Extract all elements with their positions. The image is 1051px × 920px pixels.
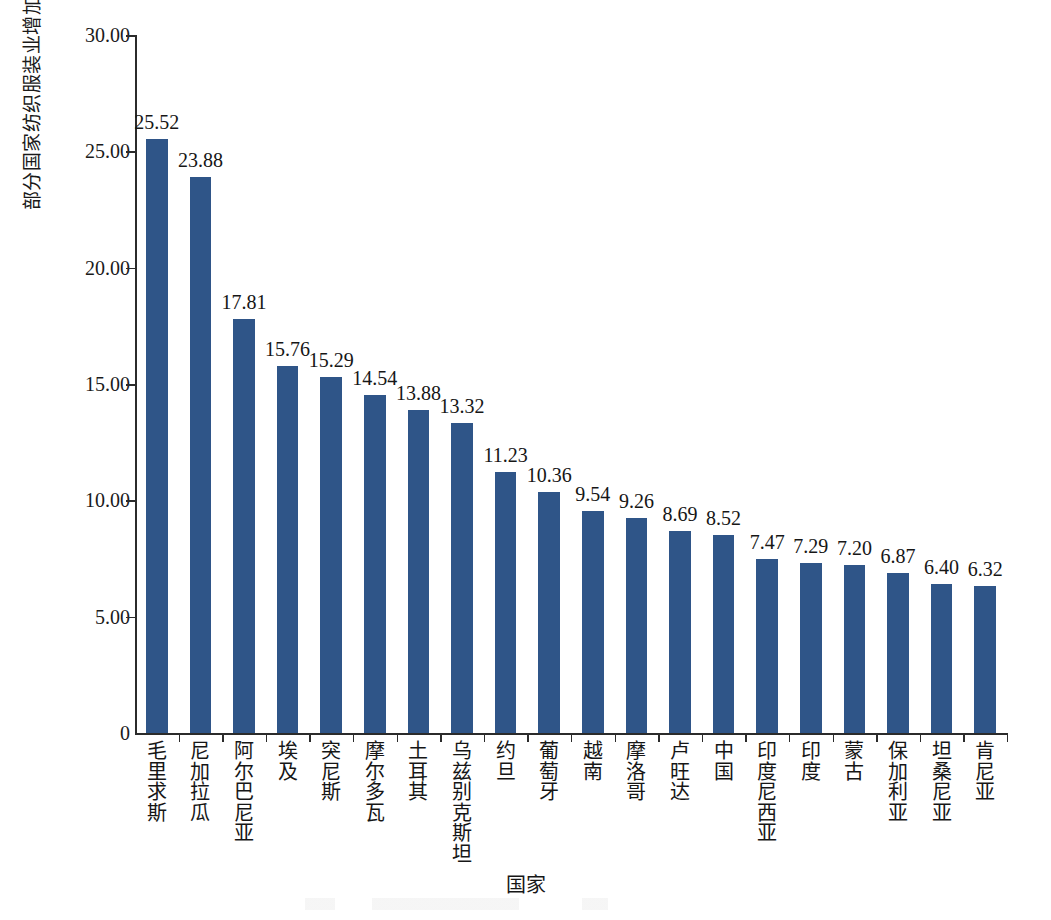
x-axis-category-label: 约旦 [484, 741, 528, 782]
y-axis-tick-label: 15.00 [52, 374, 130, 394]
y-axis-title: 部分国家纺织服装业增加值占制造业的比重/% [18, 0, 48, 210]
x-axis-category-label: 毛里求斯 [135, 741, 179, 823]
plot-area: 25.5223.8817.8115.7615.2914.5413.8813.32… [135, 35, 1007, 733]
bar-value-label: 14.54 [352, 368, 397, 388]
y-axis-tick-label: 20.00 [52, 258, 130, 278]
bar-item[interactable]: 15.29 [320, 35, 342, 733]
bar-value-label: 6.32 [968, 559, 1003, 579]
bar-value-label: 8.69 [662, 504, 697, 524]
y-axis-tick-label: 5.00 [52, 607, 130, 627]
bar-rect [756, 559, 778, 733]
bar-chart-figure: 部分国家纺织服装业增加值占制造业的比重/% 30.0025.0020.0015.… [0, 0, 1051, 920]
bar-item[interactable]: 25.52 [146, 35, 168, 733]
bar-rect [582, 511, 604, 733]
bar-rect [277, 366, 299, 733]
x-axis-category-label: 中国 [702, 741, 746, 782]
bar-rect [626, 518, 648, 733]
bar-value-label: 7.47 [750, 532, 785, 552]
bar-value-label: 13.88 [396, 383, 441, 403]
bar-value-label: 6.40 [924, 557, 959, 577]
y-axis-tick-mark [126, 268, 135, 270]
x-axis-category-label: 印度尼西亚 [745, 741, 789, 844]
bar-item[interactable]: 8.69 [669, 35, 691, 733]
bar-item[interactable]: 8.52 [713, 35, 735, 733]
x-axis-category-label: 土耳其 [397, 741, 441, 803]
bar-item[interactable]: 10.36 [538, 35, 560, 733]
bar-item[interactable]: 9.26 [626, 35, 648, 733]
x-axis-category-label: 摩尔多瓦 [353, 741, 397, 823]
bar-item[interactable]: 7.47 [756, 35, 778, 733]
bar-item[interactable]: 23.88 [190, 35, 212, 733]
bar-value-label: 23.88 [178, 150, 223, 170]
bar-value-label: 8.52 [706, 508, 741, 528]
bar-value-label: 7.29 [793, 536, 828, 556]
y-axis-tick-label: 0 [52, 723, 130, 743]
bar-item[interactable]: 13.88 [408, 35, 430, 733]
bar-rect [320, 377, 342, 733]
x-axis-category-label: 埃及 [266, 741, 310, 782]
y-axis-tick-mark [126, 35, 135, 37]
x-axis-tick-mark [1007, 733, 1008, 742]
bar-value-label: 15.29 [309, 350, 354, 370]
y-axis-tick-label: 30.00 [52, 25, 130, 45]
bar-rect [887, 573, 909, 733]
y-axis-tick-mark [126, 617, 135, 619]
bar-rect [800, 563, 822, 733]
bar-value-label: 11.23 [483, 445, 527, 465]
bar-rect [974, 586, 996, 733]
x-axis-category-label: 尼加拉瓜 [179, 741, 223, 823]
bar-item[interactable]: 7.20 [844, 35, 866, 733]
bar-value-label: 6.87 [880, 546, 915, 566]
bar-rect [364, 395, 386, 733]
bar-item[interactable]: 14.54 [364, 35, 386, 733]
bar-rect [408, 410, 430, 733]
x-axis-category-label: 越南 [571, 741, 615, 782]
x-axis-category-label: 坦桑尼亚 [920, 741, 964, 823]
x-axis-category-label: 保加利亚 [876, 741, 920, 823]
bar-rect [451, 423, 473, 733]
scan-bleed-artifact [280, 898, 700, 910]
bar-rect [495, 472, 517, 733]
bar-rect [844, 565, 866, 733]
x-axis-category-label: 摩洛哥 [615, 741, 659, 803]
bar-value-label: 15.76 [265, 339, 310, 359]
bar-rect [146, 139, 168, 733]
x-axis-category-label: 蒙古 [833, 741, 877, 782]
y-axis-tick-mark [126, 151, 135, 153]
bar-item[interactable]: 13.32 [451, 35, 473, 733]
bar-item[interactable]: 6.87 [887, 35, 909, 733]
bar-item[interactable]: 6.32 [974, 35, 996, 733]
bar-item[interactable]: 9.54 [582, 35, 604, 733]
x-axis-category-label: 印度 [789, 741, 833, 782]
bar-value-label: 9.26 [619, 491, 654, 511]
bar-rect [713, 535, 735, 733]
bar-rect [669, 531, 691, 733]
bar-value-label: 17.81 [221, 292, 266, 312]
bar-item[interactable]: 6.40 [931, 35, 953, 733]
bar-series: 25.5223.8817.8115.7615.2914.5413.8813.32… [135, 35, 1007, 733]
bar-item[interactable]: 17.81 [233, 35, 255, 733]
bar-rect [190, 177, 212, 733]
bar-rect [538, 492, 560, 733]
bar-item[interactable]: 7.29 [800, 35, 822, 733]
bar-rect [931, 584, 953, 733]
y-axis-tick-label: 10.00 [52, 490, 130, 510]
bar-value-label: 7.20 [837, 538, 872, 558]
bar-value-label: 25.52 [134, 112, 179, 132]
x-axis-category-label: 葡萄牙 [527, 741, 571, 803]
x-axis-category-label: 肯尼亚 [963, 741, 1007, 803]
y-axis-tick-mark [126, 384, 135, 386]
y-axis-tick-labels: 30.0025.0020.0015.0010.005.000 [52, 0, 130, 920]
x-axis-title: 国家 [0, 869, 1051, 898]
x-axis-category-label: 阿尔巴尼亚 [222, 741, 266, 844]
x-axis-category-label: 乌兹别克斯坦 [440, 741, 484, 864]
bar-rect [233, 319, 255, 733]
y-axis-tick-mark [126, 500, 135, 502]
bar-item[interactable]: 15.76 [277, 35, 299, 733]
bar-item[interactable]: 11.23 [495, 35, 517, 733]
bar-value-label: 9.54 [575, 484, 610, 504]
x-axis-category-label: 突尼斯 [309, 741, 353, 803]
bar-value-label: 13.32 [439, 396, 484, 416]
x-axis-category-labels: 毛里求斯尼加拉瓜阿尔巴尼亚埃及突尼斯摩尔多瓦土耳其乌兹别克斯坦约旦葡萄牙越南摩洛… [135, 741, 1007, 871]
bar-value-label: 10.36 [527, 465, 572, 485]
